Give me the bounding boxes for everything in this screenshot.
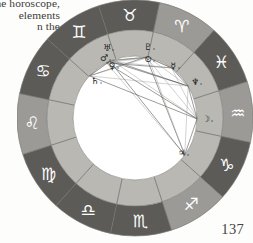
planet-glyph-mercury: ☿ xyxy=(170,61,176,71)
planet-glyph-uranus: ♅ xyxy=(103,43,111,53)
planet-glyph-sun: ⊙ xyxy=(144,54,152,64)
zodiac-glyph-scorpio: ♏ xyxy=(133,211,148,231)
zodiac-glyph-virgo: ♍ xyxy=(41,164,56,184)
horoscope-wheel: ♈♓♒♑♐♏♎♍♌♋♊♉ ♅°♂°♀°♄°♇°⊙°☿°♆°☽°♃° xyxy=(17,0,253,237)
horoscope-wheel-svg: ♈♓♒♑♐♏♎♍♌♋♊♉ ♅°♂°♀°♄°♇°⊙°☿°♆°☽°♃° xyxy=(17,0,253,237)
zodiac-glyph-taurus: ♉ xyxy=(122,5,137,25)
book-page: f the horoscope, elements n the an a e n… xyxy=(0,0,253,243)
zodiac-glyph-pisces: ♓ xyxy=(214,52,229,72)
planet-glyph-mars: ♂ xyxy=(100,53,108,63)
zodiac-glyph-leo: ♌ xyxy=(25,113,40,133)
zodiac-glyph-cancer: ♋ xyxy=(36,61,51,81)
zodiac-glyph-sagittarius: ♐ xyxy=(183,194,198,214)
planet-glyph-saturn: ♄ xyxy=(91,76,99,86)
planet-glyph-moon: ☽ xyxy=(202,114,210,124)
zodiac-glyph-aries: ♈ xyxy=(174,16,189,36)
zodiac-glyph-aquarius: ♒ xyxy=(230,103,245,123)
planet-glyph-jupiter: ♃ xyxy=(178,148,186,158)
zodiac-glyph-capricorn: ♑ xyxy=(219,155,234,175)
planet-glyph-neptune: ♆ xyxy=(191,77,199,87)
page-number: 137 xyxy=(221,221,244,238)
planet-glyph-pluto: ♇ xyxy=(144,42,152,52)
zodiac-glyph-libra: ♎ xyxy=(81,200,96,220)
zodiac-glyph-gemini: ♊ xyxy=(71,22,86,42)
planet-glyph-venus: ♀ xyxy=(109,61,116,71)
